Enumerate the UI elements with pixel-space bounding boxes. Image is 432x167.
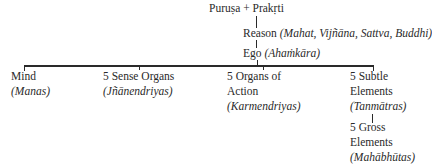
reason-label: Reason bbox=[243, 27, 277, 39]
reason-synonyms: (Mahat, Vijñāna, Sattva, Buddhi) bbox=[280, 27, 432, 39]
node-reason: Reason (Mahat, Vijñāna, Sattva, Buddhi) bbox=[243, 26, 432, 41]
root-node-purusa-prakrti: Puruṣa + Prakṛti bbox=[209, 1, 284, 16]
node-subtle-elements-sanskrit: (Tanmātras) bbox=[350, 99, 406, 114]
branch-bar bbox=[24, 65, 374, 67]
ego-synonyms: (Ahaṁkāra) bbox=[264, 47, 320, 59]
node-gross-elements-line2: Elements bbox=[350, 135, 393, 150]
node-mind-sanskrit: (Manas) bbox=[11, 84, 50, 99]
node-ego: Ego (Ahaṁkāra) bbox=[243, 46, 320, 61]
node-sense-organs-sanskrit: (Jñānendriyas) bbox=[103, 84, 173, 99]
node-organs-of-action-sanskrit: (Karmendriyas) bbox=[227, 99, 300, 114]
node-organs-of-action-line2: Action bbox=[227, 84, 258, 99]
node-gross-elements-line1: 5 Gross bbox=[350, 120, 385, 135]
node-gross-elements-sanskrit: (Mahābhūtas) bbox=[350, 150, 415, 165]
node-mind-label: Mind bbox=[11, 69, 36, 84]
node-subtle-elements-line1: 5 Subtle bbox=[350, 69, 388, 84]
node-subtle-elements-line2: Elements bbox=[350, 84, 393, 99]
node-sense-organs-label: 5 Sense Organs bbox=[103, 69, 174, 84]
ego-label: Ego bbox=[243, 47, 262, 59]
node-organs-of-action-line1: 5 Organs of bbox=[227, 69, 281, 84]
